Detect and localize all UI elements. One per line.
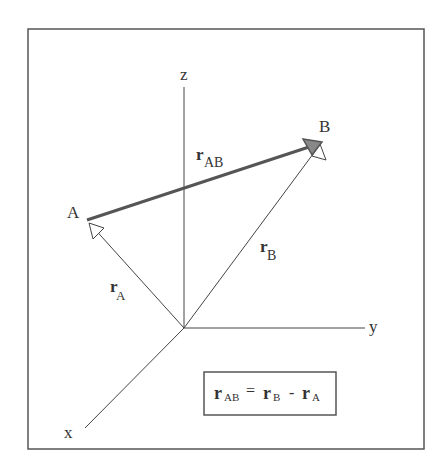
- vector-rB-label: r B: [260, 237, 276, 263]
- svg-text:AB: AB: [224, 391, 239, 403]
- point-B-label: B: [319, 117, 330, 136]
- x-axis: [85, 328, 184, 428]
- x-axis-label: x: [64, 423, 73, 442]
- svg-text:r: r: [263, 383, 271, 403]
- vector-diagram: z y x A B r AB r A r B r AB = r B - r A: [0, 0, 447, 472]
- vector-rAB-label: r AB: [196, 145, 223, 170]
- vector-rA-line: [92, 226, 184, 328]
- svg-text:r: r: [302, 383, 310, 403]
- point-A-label: A: [67, 203, 80, 222]
- svg-text:B: B: [273, 391, 280, 403]
- svg-text:A: A: [116, 288, 126, 303]
- svg-text:AB: AB: [204, 155, 223, 170]
- svg-text:=: =: [246, 382, 255, 399]
- svg-text:A: A: [312, 391, 320, 403]
- svg-text:r: r: [214, 383, 222, 403]
- svg-text:B: B: [267, 248, 276, 263]
- z-axis-label: z: [180, 65, 188, 84]
- svg-text:r: r: [196, 145, 204, 164]
- y-axis-label: y: [369, 317, 378, 336]
- vector-rB-line: [184, 150, 316, 328]
- vector-rA-label: r A: [110, 277, 126, 303]
- svg-text:-: -: [289, 384, 294, 401]
